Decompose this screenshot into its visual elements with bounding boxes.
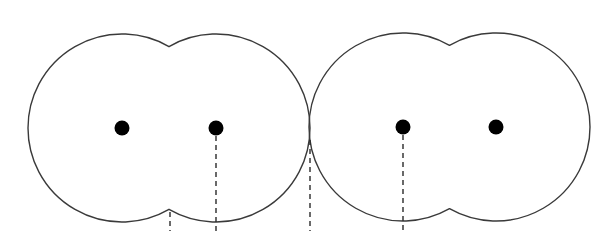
right-pair-outline [309,33,590,221]
right-pair-center-dot-1 [396,120,411,135]
left-pair-center-dot-1 [115,121,130,136]
left-pair-center-dot-2 [209,121,224,136]
right-pair-center-dot-2 [489,120,504,135]
left-pair-outline [28,34,310,222]
overlapping-circles-diagram [0,0,608,249]
